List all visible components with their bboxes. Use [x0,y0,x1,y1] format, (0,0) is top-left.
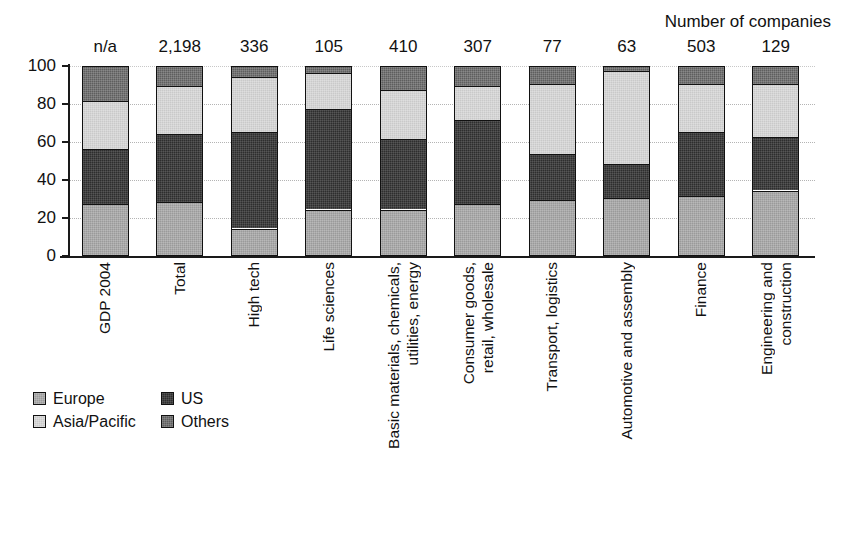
bar-segment-basic-materials-chemicals-utilities-energy-europe[interactable] [381,210,426,257]
bar-engineering-and-construction[interactable] [752,66,799,256]
segment-divider [157,202,202,203]
y-tick-label-100: 100 [12,57,56,74]
bar-segment-transport-logistics-europe[interactable] [530,200,575,256]
segment-divider [381,210,426,211]
bar-segment-life-sciences-asia-pacific[interactable] [306,73,351,109]
legend-item-others[interactable]: Others [161,413,281,430]
bar-segment-transport-logistics-asia-pacific[interactable] [530,84,575,154]
segment-divider [83,204,128,205]
segment-divider [679,132,724,133]
bar-segment-life-sciences-us[interactable] [306,109,351,210]
bar-segment-transport-logistics-others[interactable] [530,67,575,84]
segment-divider [157,86,202,87]
bar-segment-engineering-and-construction-us[interactable] [753,137,798,190]
category-label-line: Basic materials, chemicals, [385,262,403,449]
bar-segment-basic-materials-chemicals-utilities-energy-us[interactable] [381,139,426,209]
bar-segment-finance-asia-pacific[interactable] [679,84,724,132]
y-tick-mark-20 [62,217,69,219]
category-label-line: Consumer goods, [460,262,478,384]
legend-item-europe[interactable]: Europe [33,390,161,407]
bar-segment-total-europe[interactable] [157,202,202,256]
segment-divider [83,101,128,102]
bar-segment-transport-logistics-us[interactable] [530,154,575,200]
legend-label-us: US [181,390,203,407]
bar-value-label-finance: 503 [666,38,737,56]
segment-divider [679,196,724,197]
bar-basic-materials-chemicals-utilities-energy[interactable] [380,66,427,256]
segment-divider [753,137,798,138]
bar-segment-basic-materials-chemicals-utilities-energy-asia-pacific[interactable] [381,90,426,139]
segment-divider [753,191,798,192]
x-axis-line [60,256,815,258]
segment-divider [530,84,575,85]
bar-segment-gdp-2004-asia-pacific[interactable] [83,101,128,149]
category-label-line: Automotive and assembly [618,262,636,439]
y-tick-mark-80 [62,103,69,105]
bar-segment-automotive-and-assembly-asia-pacific[interactable] [604,71,649,164]
y-tick-label-40: 40 [12,171,56,188]
y-axis-line [68,64,70,258]
legend-swatch-asia-pacific [33,415,46,428]
legend-item-us[interactable]: US [161,390,281,407]
bar-segment-finance-europe[interactable] [679,196,724,256]
bar-segment-automotive-and-assembly-us[interactable] [604,164,649,198]
bar-consumer-goods-retail-wholesale[interactable] [454,66,501,256]
segment-divider [381,139,426,140]
bar-segment-automotive-and-assembly-europe[interactable] [604,198,649,256]
bar-segment-consumer-goods-retail-wholesale-others[interactable] [455,67,500,86]
bar-segment-basic-materials-chemicals-utilities-energy-others[interactable] [381,67,426,90]
bar-segment-high-tech-europe[interactable] [232,229,277,257]
bar-segment-engineering-and-construction-asia-pacific[interactable] [753,84,798,137]
legend-row: Asia/Pacific Others [33,410,333,433]
bar-segment-engineering-and-construction-europe[interactable] [753,191,798,257]
bar-segment-finance-others[interactable] [679,67,724,84]
bar-segment-finance-us[interactable] [679,132,724,197]
category-label-line: Total [171,262,189,295]
segment-divider [530,154,575,155]
chart-annotation: Number of companies [665,12,831,32]
segment-divider [604,198,649,199]
bar-automotive-and-assembly[interactable] [603,66,650,256]
bar-segment-consumer-goods-retail-wholesale-asia-pacific[interactable] [455,86,500,120]
category-label-line: Transport, logistics [543,262,561,392]
category-label-line: GDP 2004 [96,262,114,334]
bar-segment-high-tech-others[interactable] [232,67,277,77]
category-label-line: Engineering and [758,262,776,375]
y-tick-label-20: 20 [12,209,56,226]
bar-segment-consumer-goods-retail-wholesale-europe[interactable] [455,204,500,256]
segment-divider [381,90,426,91]
bar-segment-gdp-2004-europe[interactable] [83,204,128,256]
bar-segment-high-tech-us[interactable] [232,132,277,229]
bar-segment-gdp-2004-us[interactable] [83,149,128,204]
segment-divider [530,200,575,201]
bar-segment-gdp-2004-others[interactable] [83,67,128,101]
bar-life-sciences[interactable] [305,66,352,256]
category-label-line: construction [777,262,795,346]
bar-segment-life-sciences-europe[interactable] [306,210,351,257]
bar-transport-logistics[interactable] [529,66,576,256]
segment-divider [306,73,351,74]
bar-finance[interactable] [678,66,725,256]
bar-segment-engineering-and-construction-others[interactable] [753,67,798,84]
bar-segment-total-asia-pacific[interactable] [157,86,202,134]
y-tick-mark-0 [62,255,69,257]
bar-segment-total-others[interactable] [157,67,202,86]
bar-value-label-gdp-2004: n/a [70,38,141,56]
segment-divider [455,204,500,205]
legend-swatch-us [161,392,174,405]
legend-item-asia-pacific[interactable]: Asia/Pacific [33,413,161,430]
bar-segment-consumer-goods-retail-wholesale-us[interactable] [455,120,500,204]
chart-legend: Europe US Asia/Pacific Others [33,387,333,433]
bar-gdp-2004[interactable] [82,66,129,256]
bar-segment-total-us[interactable] [157,134,202,202]
segment-divider [604,164,649,165]
segment-divider [306,210,351,211]
y-tick-label-0: 0 [12,247,56,264]
bar-high-tech[interactable] [231,66,278,256]
segment-divider [306,109,351,110]
bar-total[interactable] [156,66,203,256]
category-label-line: utilities, energy [404,262,422,365]
bar-segment-high-tech-asia-pacific[interactable] [232,77,277,132]
legend-swatch-europe [33,392,46,405]
y-tick-mark-40 [62,179,69,181]
